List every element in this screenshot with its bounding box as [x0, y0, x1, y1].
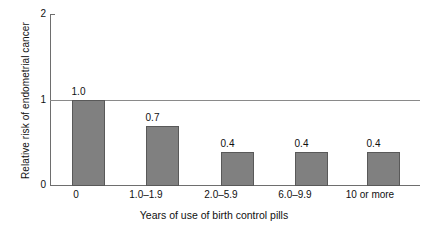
x-tick-label-3: 6.0–9.9 [257, 189, 333, 200]
x-tick-label-0: 0 [46, 189, 106, 200]
bar-category-0 [72, 100, 105, 186]
bar-category-3 [295, 152, 328, 186]
plot-area [50, 14, 420, 186]
bar-chart-figure: Relative risk of endometrial cancer 2 1 … [0, 0, 428, 235]
bar-category-1 [146, 126, 179, 186]
bar-category-4 [367, 152, 400, 186]
x-tick-label-1: 1.0–1.9 [108, 189, 184, 200]
x-axis-title: Years of use of birth control pills [0, 209, 428, 221]
y-tick-label-0: 0 [24, 179, 46, 190]
y-tick-label-1: 1 [24, 94, 46, 105]
x-tick-label-2: 2.0–5.9 [183, 189, 259, 200]
bar-value-label-2: 0.4 [205, 138, 250, 149]
bar-value-label-3: 0.4 [279, 138, 324, 149]
x-tick-label-4: 10 or more [329, 189, 411, 200]
bar-value-label-4: 0.4 [351, 138, 396, 149]
bar-value-label-1: 0.7 [130, 112, 175, 123]
bar-category-2 [221, 152, 254, 186]
y-tick-label-2: 2 [24, 8, 46, 19]
bar-value-label-0: 1.0 [56, 86, 101, 97]
